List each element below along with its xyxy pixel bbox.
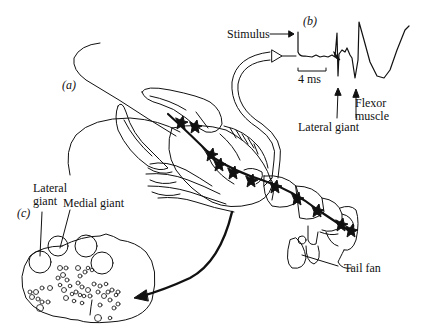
tail-fan-label: Tail fan [344,262,381,275]
panel-label-c: (c) [17,207,30,220]
lateral-giant-trace-label: Lateral giant [298,121,359,134]
panel-label-a: (a) [62,79,76,92]
flexor-muscle-label-line2: muscle [355,110,389,123]
recording-trace [270,22,409,118]
nerve-cord-cross-section [22,210,155,323]
medial-giant-axon-right [75,235,97,257]
stimulus-label: Stimulus [227,28,270,41]
scale-bar-label: 4 ms [298,73,321,86]
medial-giant-label: Medial giant [63,197,124,210]
lateral-giant-axon-right [91,252,113,274]
figure-drawing [0,0,424,335]
crayfish-escape-figure: (a) (b) (c) Stimulus 4 ms Lateral giant … [0,0,424,335]
lateral-giant-section-label-line2: giant [33,195,57,208]
section-arrow [134,212,232,301]
panel-label-b: (b) [303,15,317,28]
